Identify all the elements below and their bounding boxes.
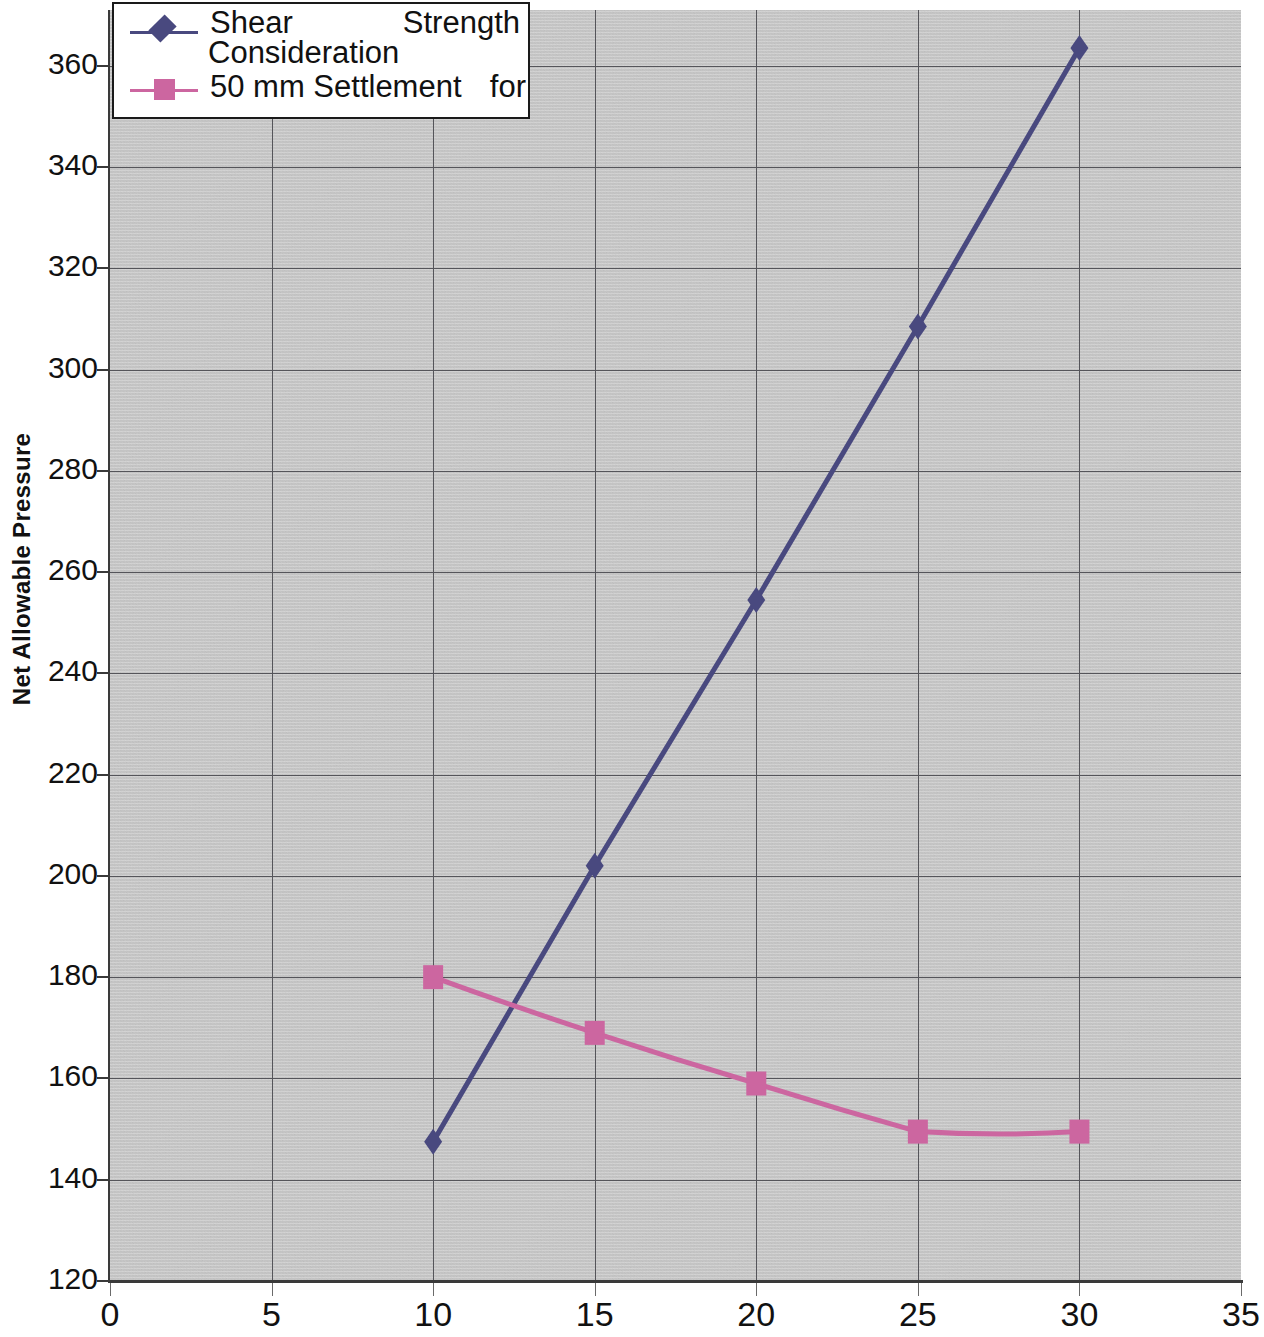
x-axis-line: [108, 1280, 1243, 1283]
y-tick-mark: [97, 875, 110, 877]
legend-key-settlement: [130, 78, 198, 102]
y-axis-line: [108, 10, 110, 1283]
x-tick-label: 25: [858, 1297, 978, 1331]
y-tick-mark: [97, 1179, 110, 1181]
y-tick-mark: [97, 470, 110, 472]
gridline-horizontal: [110, 1180, 1241, 1181]
gridline-horizontal: [110, 167, 1241, 168]
y-tick-label: 300: [48, 353, 98, 383]
x-tick-label: 20: [696, 1297, 816, 1331]
legend-entry-settlement: 50 mm Settlement for: [114, 64, 528, 116]
y-tick-mark: [97, 976, 110, 978]
gridline-vertical: [756, 10, 757, 1281]
gridline-vertical: [272, 10, 273, 1281]
x-tick-label: 35: [1181, 1297, 1264, 1331]
y-tick-mark: [97, 267, 110, 269]
y-tick-label: 160: [48, 1061, 98, 1091]
x-tick-label: 15: [535, 1297, 655, 1331]
y-tick-label: 220: [48, 758, 98, 788]
y-tick-mark: [97, 65, 110, 67]
x-tick-label: 10: [373, 1297, 493, 1331]
legend-label-settlement: 50 mm Settlement for: [210, 72, 526, 102]
gridline-horizontal: [110, 977, 1241, 978]
gridline-horizontal: [110, 673, 1241, 674]
diamond-marker-icon: [148, 14, 176, 42]
gridline-horizontal: [110, 268, 1241, 269]
legend-key-shear-strength: [130, 20, 198, 44]
gridline-vertical: [1079, 10, 1080, 1281]
square-marker-icon: [154, 79, 175, 100]
y-tick-label: 200: [48, 859, 98, 889]
y-tick-label: 120: [48, 1264, 98, 1294]
gridline-vertical: [433, 10, 434, 1281]
y-tick-mark: [97, 571, 110, 573]
y-tick-mark: [97, 672, 110, 674]
y-tick-label: 260: [48, 555, 98, 585]
y-tick-mark: [97, 1280, 110, 1282]
y-tick-label: 140: [48, 1163, 98, 1193]
plot-background-texture: [110, 10, 1241, 1281]
y-tick-label: 320: [48, 251, 98, 281]
x-tick-label: 30: [1019, 1297, 1139, 1331]
legend-label-part-1: 50 mm Settlement: [210, 72, 462, 102]
gridline-vertical: [918, 10, 919, 1281]
chart-container: 120140160180200220240260280300320340360 …: [0, 0, 1264, 1337]
legend: Shear Strength Consideration 50 mm Settl…: [112, 2, 530, 119]
y-tick-mark: [97, 166, 110, 168]
gridline-horizontal: [110, 370, 1241, 371]
y-tick-label: 360: [48, 49, 98, 79]
legend-label-part-2: for: [490, 72, 526, 102]
legend-label-shear-strength: Shear Strength Consideration: [210, 8, 520, 69]
y-tick-label: 240: [48, 656, 98, 686]
gridline-horizontal: [110, 572, 1241, 573]
y-tick-label: 280: [48, 454, 98, 484]
x-tick-label: 0: [50, 1297, 170, 1331]
y-tick-label: 340: [48, 150, 98, 180]
gridline-horizontal: [110, 775, 1241, 776]
gridline-horizontal: [110, 876, 1241, 877]
legend-entry-shear-strength: Shear Strength Consideration: [114, 6, 528, 58]
gridline-horizontal: [110, 1078, 1241, 1079]
y-tick-mark: [97, 369, 110, 371]
gridline-vertical: [595, 10, 596, 1281]
legend-label-part-1: Shear: [210, 8, 293, 38]
plot-area: [110, 10, 1241, 1281]
y-tick-mark: [97, 774, 110, 776]
y-axis-title: Net Allowable Pressure: [8, 359, 36, 779]
y-tick-label: 180: [48, 960, 98, 990]
gridline-horizontal: [110, 471, 1241, 472]
x-tick-label: 5: [212, 1297, 332, 1331]
y-tick-mark: [97, 1077, 110, 1079]
legend-label-part-2: Strength: [403, 8, 520, 38]
